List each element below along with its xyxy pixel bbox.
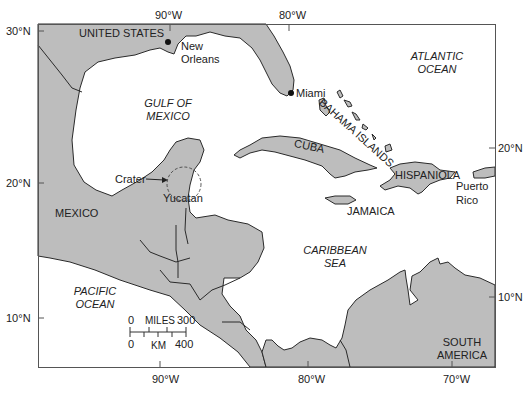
label-jamaica: JAMAICA	[347, 205, 395, 218]
scale-bar	[130, 327, 186, 337]
label-puerto-rico-1: Puerto	[456, 180, 488, 193]
label-pacific-ocean-1: PACIFIC	[60, 285, 130, 298]
label-hispaniola: HISPANIOLA	[395, 169, 460, 182]
top-tick-80w: 80°W	[279, 9, 306, 22]
left-tick-10n: 10°N	[6, 312, 31, 325]
label-gulf-of-mexico-1: GULF OF	[128, 97, 208, 110]
scale-miles-label: MILES	[145, 314, 175, 327]
bahamas-island	[337, 90, 343, 98]
label-atlantic-ocean-2: OCEAN	[397, 63, 477, 76]
bottom-tick-80w: 80°W	[298, 373, 325, 386]
puerto-rico	[473, 167, 495, 178]
top-tick-90w: 90°W	[155, 9, 182, 22]
label-puerto-rico-2: Rico	[456, 194, 478, 207]
label-gulf-of-mexico-2: MEXICO	[128, 110, 208, 123]
label-mexico: MEXICO	[55, 207, 98, 220]
bottom-tick-70w: 70°W	[443, 373, 470, 386]
jamaica	[325, 196, 356, 204]
bahamas-island	[344, 100, 352, 107]
bahamas-island	[352, 112, 360, 120]
label-new-orleans-2: Orleans	[181, 53, 220, 66]
right-tick-10n: 10°N	[498, 291, 523, 304]
scale-km-zero: 0	[128, 338, 134, 351]
label-south-america-2: AMERICA	[432, 349, 492, 362]
left-tick-30n: 30°N	[6, 25, 31, 38]
bottom-tick-90w: 90°W	[152, 373, 179, 386]
scale-km-label: KM	[151, 339, 166, 352]
label-south-america-1: SOUTH	[432, 336, 492, 349]
label-united-states: UNITED STATES	[79, 27, 164, 40]
label-pacific-ocean-2: OCEAN	[60, 298, 130, 311]
new-orleans-dot-icon	[165, 39, 171, 45]
miami-dot-icon	[288, 90, 294, 96]
label-caribbean-sea-1: CARIBBEAN	[290, 244, 380, 257]
label-new-orleans-1: New	[181, 40, 203, 53]
right-tick-20n: 20°N	[498, 142, 523, 155]
left-tick-20n: 20°N	[6, 177, 31, 190]
label-crater: Crater	[115, 173, 146, 186]
scale-miles-zero: 0	[128, 314, 134, 327]
label-yucatan: Yucatan	[163, 192, 203, 205]
label-caribbean-sea-2: SEA	[290, 257, 380, 270]
label-miami: Miami	[296, 87, 325, 100]
bahamas-island	[362, 124, 368, 130]
scale-km-max: 400	[175, 338, 193, 351]
label-atlantic-ocean-1: ATLANTIC	[397, 50, 477, 63]
scale-miles-max: 300	[177, 314, 195, 327]
